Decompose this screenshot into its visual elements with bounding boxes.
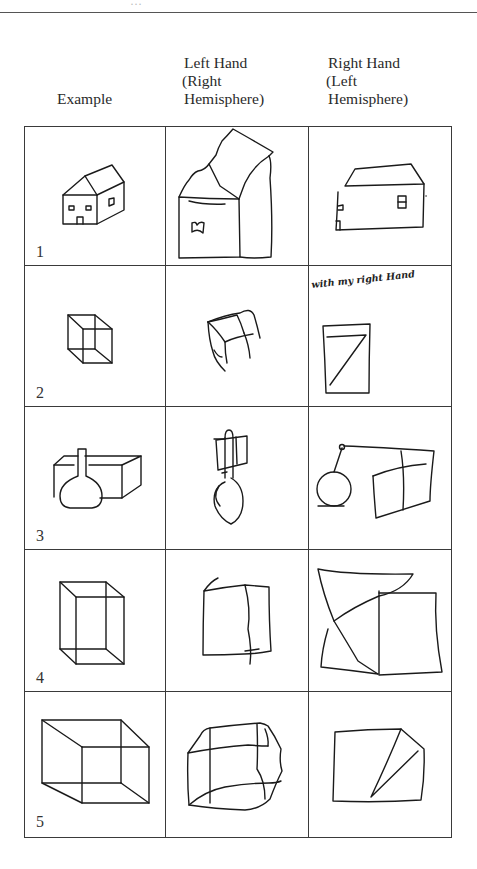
cube-example-icon (24, 265, 165, 406)
column-header-right-hand: Right Hand (Left Hemisphere) (326, 54, 408, 108)
house-left-hand-icon (165, 126, 308, 265)
header-line: Hemisphere) (328, 90, 408, 108)
flask-box-right-hand-icon (308, 406, 452, 549)
row5-left-hand-drawing (165, 691, 308, 838)
flask-box-example-icon (24, 406, 165, 549)
flask-box-left-hand-icon (165, 406, 308, 549)
cube-left-hand-icon (165, 265, 308, 406)
prism-left-hand-icon (165, 549, 308, 691)
header-line: (Left (326, 72, 408, 90)
cutoff-heading: … (130, 0, 250, 6)
irregular-box-left-hand-icon (165, 691, 308, 838)
row3-left-hand-drawing (165, 406, 308, 549)
house-right-hand-icon (308, 126, 452, 265)
column-header-left-hand: Left Hand (Right Hemisphere) (182, 54, 264, 108)
wedge-right-hand-icon (308, 691, 452, 838)
row1-left-hand-drawing (165, 126, 308, 265)
header-line: Example (57, 90, 112, 108)
house-example-icon (24, 126, 165, 265)
row3-example-drawing (24, 406, 165, 549)
row4-left-hand-drawing (165, 549, 308, 691)
header-line: Hemisphere) (184, 90, 264, 108)
row3-right-hand-drawing (308, 406, 452, 549)
column-header-example: Example (57, 90, 112, 108)
header-line: (Right (182, 72, 264, 90)
row2-example-drawing (24, 265, 165, 406)
row4-example-drawing (24, 549, 165, 691)
row1-right-hand-drawing (308, 126, 452, 265)
top-rule (0, 12, 477, 13)
planes-right-hand-icon (308, 549, 452, 691)
row4-right-hand-drawing (308, 549, 452, 691)
row2-left-hand-drawing (165, 265, 308, 406)
row5-right-hand-drawing (308, 691, 452, 838)
row1-example-drawing (24, 126, 165, 265)
row5-example-drawing (24, 691, 165, 838)
header-line: Right Hand (328, 54, 408, 72)
prism-example-icon (24, 549, 165, 691)
open-box-example-icon (24, 691, 165, 838)
header-line: Left Hand (184, 54, 264, 72)
